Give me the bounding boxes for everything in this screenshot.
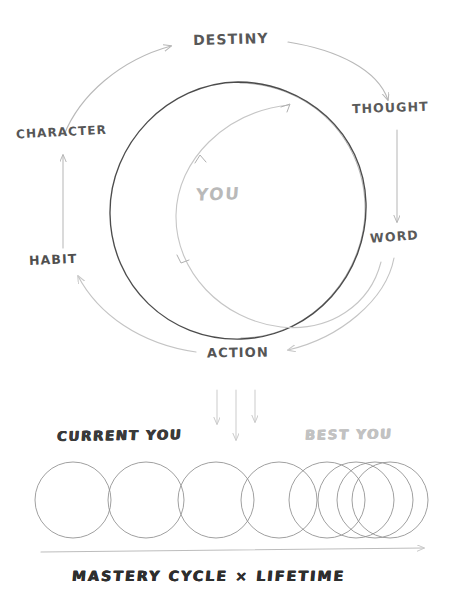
arc-character-to-destiny <box>64 46 171 135</box>
progression-label-current-you: CURRENT YOU <box>56 426 183 444</box>
progression-circle <box>352 462 428 538</box>
progression-circle <box>35 462 111 538</box>
arc-destiny-to-thought <box>288 42 388 100</box>
progression-circle <box>289 462 365 538</box>
timeline-axis <box>41 548 424 552</box>
progression-circles <box>35 462 428 538</box>
progression-circle <box>337 462 413 538</box>
progression-circle <box>178 462 254 538</box>
cycle-center-label-you: YOU <box>195 183 241 205</box>
timeline-axis-label: MASTERY CYCLE × LIFETIME <box>71 568 346 584</box>
spiral-arrowhead-low <box>177 255 189 263</box>
inner-spiral <box>176 104 381 328</box>
progression-circle <box>318 462 394 538</box>
cycle-label-destiny: DESTINY <box>193 30 269 48</box>
cycle-label-thought: THOUGHT <box>352 99 429 117</box>
progression-label-best-you: BEST YOU <box>304 425 393 442</box>
transition-arrows <box>217 390 255 440</box>
cycle-label-habit: HABIT <box>29 251 78 268</box>
diagram-canvas: DESTINY THOUGHT WORD ACTION HABIT CHARAC… <box>0 0 453 599</box>
sketch-layer <box>0 0 453 599</box>
progression-circle <box>108 462 184 538</box>
cycle-label-action: ACTION <box>207 344 269 360</box>
arc-action-to-habit <box>78 276 196 352</box>
progression-circle <box>241 462 317 538</box>
